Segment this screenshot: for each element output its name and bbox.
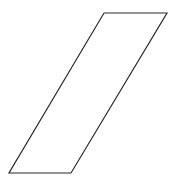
- figure-canvas: [0, 0, 175, 186]
- parallelogram-figure: [0, 0, 175, 186]
- parallelogram-outline: [9, 13, 167, 173]
